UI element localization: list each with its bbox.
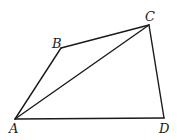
vertex-label-c: C <box>145 9 155 24</box>
edge-cd <box>149 25 164 118</box>
vertex-label-a: A <box>8 121 18 136</box>
quadrilateral-diagram: A B C D <box>0 0 177 140</box>
diagonal-ac <box>15 25 149 119</box>
edge-ab <box>15 48 61 119</box>
edge-bc <box>61 25 149 48</box>
vertex-label-d: D <box>158 121 170 136</box>
edge-da <box>15 118 164 119</box>
edges <box>15 25 164 119</box>
vertex-label-b: B <box>51 36 62 51</box>
